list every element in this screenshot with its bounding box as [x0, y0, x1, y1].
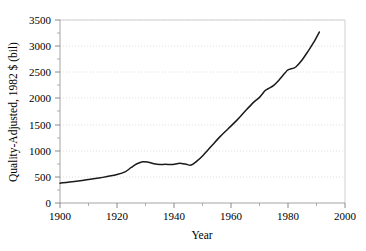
y-tick-label-2000: 2000: [29, 92, 52, 104]
y-tick-label-1500: 1500: [29, 119, 52, 131]
x-tick-label-1940: 1940: [163, 210, 186, 222]
x-tick-label-1980: 1980: [277, 210, 300, 222]
y-tick-label-3000: 3000: [29, 40, 52, 52]
x-tick-label-1960: 1960: [220, 210, 243, 222]
y-tick-label-0: 0: [46, 197, 52, 209]
x-tick-label-1900: 1900: [49, 210, 72, 222]
x-tick-label-1920: 1920: [106, 210, 129, 222]
y-tick-label-1000: 1000: [29, 145, 52, 157]
y-tick-label-3500: 3500: [29, 14, 52, 26]
line-chart: 3500 3000 2500 2000 1500 1000 500 0 1900…: [0, 0, 366, 251]
x-axis-title: Year: [191, 229, 212, 241]
chart-canvas: 3500 3000 2500 2000 1500 1000 500 0 1900…: [0, 0, 366, 251]
y-tick-label-500: 500: [35, 171, 52, 183]
x-tick-label-2000: 2000: [334, 210, 357, 222]
page-caption-fragment: [0, 246, 120, 251]
y-tick-label-2500: 2500: [29, 66, 52, 78]
y-axis-title: Quality-Adjusted, 1982 $ (bil): [7, 42, 20, 182]
